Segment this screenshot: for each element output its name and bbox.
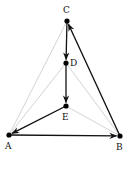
node-a	[6, 132, 11, 137]
node-d	[63, 60, 68, 65]
node-b	[117, 133, 122, 138]
light-edge-d-b	[66, 63, 120, 136]
node-label-e: E	[62, 112, 69, 122]
light-edge-a-c	[9, 21, 67, 135]
arrow-e-to-a	[12, 106, 66, 133]
arrow-c-to-d	[66, 21, 67, 60]
node-label-a: A	[4, 141, 12, 151]
node-c	[64, 18, 69, 23]
graph-diagram: CDEAB	[0, 0, 131, 173]
node-label-d: D	[70, 58, 77, 68]
arrow-b-to-c	[68, 24, 120, 136]
node-label-c: C	[63, 5, 70, 15]
arrow-a-to-b	[9, 135, 117, 136]
node-e	[63, 103, 68, 108]
light-edge-e-b	[66, 106, 120, 136]
node-label-b: B	[116, 142, 123, 152]
light-edge-a-d	[9, 63, 66, 135]
